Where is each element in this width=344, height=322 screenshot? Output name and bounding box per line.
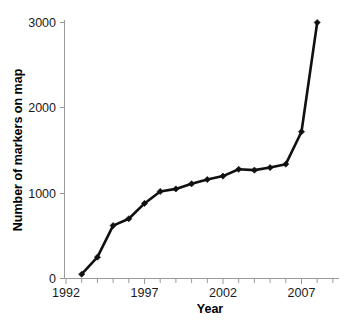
data-point — [251, 167, 257, 173]
y-tick-label-3000: 3000 — [28, 16, 56, 30]
x-axis-title: Year — [197, 302, 224, 316]
y-axis-tick-labels: 3000 2000 1000 0 — [28, 16, 56, 286]
y-tick-label-1000: 1000 — [28, 187, 56, 201]
y-tick-label-2000: 2000 — [28, 101, 56, 115]
x-axis-tick-labels: 1992 1997 2002 2007 — [52, 286, 315, 300]
x-tick-label-1997: 1997 — [131, 286, 159, 300]
x-tick-label-1992: 1992 — [52, 286, 80, 300]
x-tick-label-2002: 2002 — [209, 286, 237, 300]
y-tick-label-0: 0 — [49, 272, 56, 286]
data-point — [267, 164, 273, 170]
data-series-line — [82, 23, 318, 275]
x-tick-label-2007: 2007 — [288, 286, 316, 300]
line-chart-svg: 3000 2000 1000 0 1 — [0, 0, 344, 322]
x-axis-ticks — [66, 279, 333, 285]
data-series-markers — [79, 19, 321, 277]
data-point — [204, 176, 210, 182]
y-axis-ticks — [60, 23, 65, 279]
data-point — [314, 19, 320, 25]
data-point — [173, 186, 179, 192]
y-axis-title: Number of markers on map — [11, 68, 25, 231]
chart-figure: 3000 2000 1000 0 1 — [0, 0, 344, 322]
data-point — [189, 181, 195, 187]
